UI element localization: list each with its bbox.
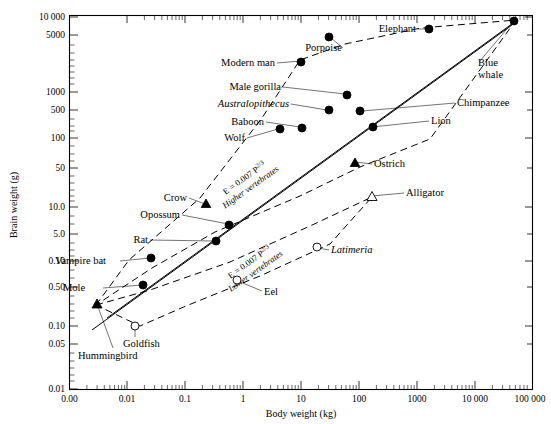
y-tick-labels: 10 000 5000 1000 500 100 50 10.0 5.0 0.1… — [39, 12, 65, 394]
marker-porpoise[interactable] — [325, 33, 333, 41]
marker-eel[interactable] — [233, 276, 241, 284]
label-baboon: Baboon — [231, 116, 264, 127]
leader-lines — [97, 23, 512, 348]
x-axis-major-ticks — [70, 381, 533, 390]
x-tick-label: 1 — [241, 394, 246, 404]
label-rat: Rat — [133, 234, 148, 245]
label-crow: Crow — [164, 192, 188, 203]
brain-body-weight-scatter-chart: 10 000 5000 1000 500 100 50 10.0 5.0 0.1… — [0, 0, 551, 424]
y-tick-label: 100 — [51, 133, 66, 143]
y-tick-label: 0.10 — [48, 321, 65, 331]
marker-modern-man[interactable] — [297, 58, 305, 66]
y-tick-label: 0.01 — [48, 384, 65, 394]
y-axis-minor-ticks — [70, 45, 75, 381]
marker-lion[interactable] — [369, 123, 377, 131]
x-tick-label: 1000 — [408, 394, 427, 404]
label-latimeria: Latimeria — [330, 244, 372, 255]
marker-chimpanzee[interactable] — [356, 107, 364, 115]
y-tick-label: 10.0 — [48, 202, 65, 212]
marker-blue-whale[interactable] — [510, 17, 518, 25]
x-tick-labels: 0.00 0.01 0.1 1 10 100 1000 10 000 100 0… — [61, 394, 546, 404]
lower-vertebrates-fit-line — [92, 22, 516, 330]
label-modern-man: Modern man — [221, 57, 276, 68]
label-eel: Eel — [264, 286, 278, 297]
marker-elephant[interactable] — [425, 25, 433, 33]
x-axis-minor-ticks — [87, 385, 527, 390]
plot-frame — [70, 16, 533, 390]
y-tick-label: 50 — [56, 163, 66, 173]
marker-rat[interactable] — [212, 237, 220, 245]
higher-vertebrates-equation: E = 0.007 P2/3 Higher vertebrates — [213, 153, 281, 211]
marker-male-gorilla[interactable] — [343, 91, 351, 99]
label-alligator: Alligator — [406, 187, 444, 198]
label-mole: Mole — [63, 282, 86, 293]
marker-latimeria[interactable] — [313, 243, 321, 251]
label-vampire-bat: Vampire bat — [55, 255, 106, 266]
x-tick-label: 0.00 — [61, 394, 78, 404]
x-axis-top-ticks — [127, 16, 527, 24]
label-blue-whale-line1: Blue — [478, 57, 498, 68]
label-opossum: Opossum — [140, 209, 180, 220]
y-tick-label: 0.05 — [48, 339, 65, 349]
higher-eq-exponent: 2/3 — [254, 158, 265, 169]
higher-vertebrates-fit-line — [107, 21, 516, 318]
higher-vertebrates-envelope — [96, 20, 516, 305]
label-australopithecus: Australopithecus — [217, 98, 289, 109]
marker-mole[interactable] — [139, 281, 147, 289]
marker-australopithecus[interactable] — [325, 106, 333, 114]
marker-opossum[interactable] — [225, 221, 233, 229]
label-chimpanzee: Chimpanzee — [457, 97, 510, 108]
label-elephant: Elephant — [379, 23, 416, 34]
label-blue-whale-line2: whale — [478, 69, 503, 80]
y-axis-major-ticks — [70, 17, 79, 389]
y-tick-label: 500 — [51, 105, 66, 115]
x-tick-label: 10 — [296, 394, 306, 404]
label-lion: Lion — [431, 115, 452, 126]
label-wolf: Wolf — [224, 132, 245, 143]
x-axis-title: Body weight (kg) — [266, 408, 337, 420]
lower-vertebrates-envelope — [96, 197, 372, 326]
y-tick-label: 5.0 — [53, 229, 65, 239]
marker-vampire-bat[interactable] — [147, 254, 155, 262]
chart-svg: 10 000 5000 1000 500 100 50 10.0 5.0 0.1… — [0, 0, 551, 424]
marker-baboon[interactable] — [298, 124, 306, 132]
label-hummingbird: Hummingbird — [78, 350, 138, 361]
label-goldfish: Goldfish — [123, 338, 161, 349]
x-tick-label: 0.1 — [179, 394, 191, 404]
y-tick-label: 5000 — [46, 30, 65, 40]
marker-wolf[interactable] — [276, 125, 284, 133]
lower-eq-exponent: 2/3 — [259, 242, 270, 253]
y-tick-label: 1000 — [46, 87, 65, 97]
y-axis-right-ticks — [525, 17, 533, 344]
label-male-gorilla: Male gorilla — [229, 81, 281, 92]
y-tick-label: 10 000 — [39, 12, 65, 22]
marker-goldfish[interactable] — [131, 322, 139, 330]
x-tick-label: 100 000 — [515, 394, 546, 404]
label-porpoise: Porpoise — [305, 42, 342, 53]
label-ostrich: Ostrich — [374, 158, 406, 169]
x-tick-label: 0.01 — [119, 394, 136, 404]
x-tick-label: 10 000 — [462, 394, 488, 404]
y-axis-title: Brain weight (g) — [8, 172, 20, 238]
x-tick-label: 100 — [352, 394, 367, 404]
marker-alligator[interactable] — [367, 192, 377, 201]
